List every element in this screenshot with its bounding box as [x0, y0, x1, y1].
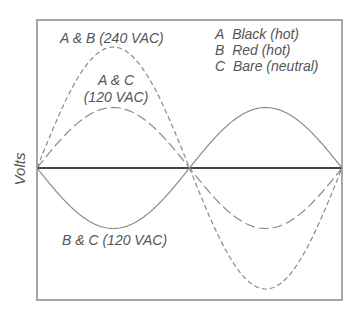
legend-item-b: B Red (hot)	[215, 42, 319, 58]
label-b-c: B & C (120 VAC)	[62, 232, 167, 248]
label-a-c-line1: A & C	[78, 72, 154, 88]
legend-key: B	[215, 42, 224, 58]
legend: A Black (hot) B Red (hot) C Bare (neutra…	[215, 26, 319, 74]
legend-key: C	[215, 58, 225, 74]
legend-text: Black (hot)	[232, 26, 299, 42]
y-axis-label: Volts	[2, 152, 36, 186]
legend-key: A	[215, 26, 224, 42]
legend-text: Red (hot)	[232, 42, 290, 58]
legend-text: Bare (neutral)	[233, 58, 319, 74]
legend-item-a: A Black (hot)	[215, 26, 319, 42]
y-axis-label-text: Volts	[11, 153, 28, 186]
legend-item-c: C Bare (neutral)	[215, 58, 319, 74]
label-a-c-line2: (120 VAC)	[78, 89, 154, 105]
label-a-b: A & B (240 VAC)	[60, 30, 164, 46]
